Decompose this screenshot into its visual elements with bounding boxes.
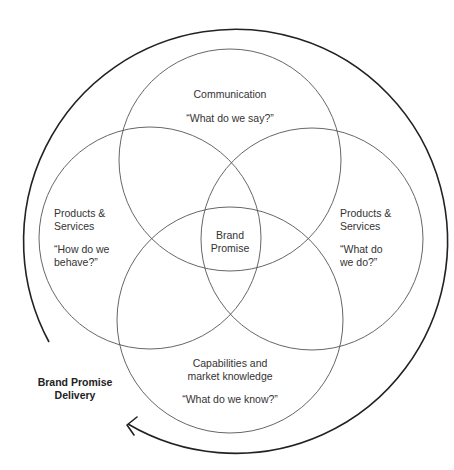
- capabilities-title: Capabilities and market knowledge: [165, 357, 295, 383]
- products-left-question: “How do we behave?”: [54, 243, 144, 269]
- brand-promise-delivery-label: Brand Promise Delivery: [29, 376, 121, 402]
- communication-question: “What do we say?”: [170, 112, 290, 125]
- products-right-title: Products & Services: [340, 207, 430, 233]
- brand-promise-center: Brand Promise: [200, 229, 260, 255]
- communication-title: Communication: [180, 88, 280, 101]
- capabilities-question: “What do we know?”: [165, 393, 295, 406]
- products-left-title: Products & Services: [54, 207, 144, 233]
- products-right-question: “What do we do?”: [340, 243, 430, 269]
